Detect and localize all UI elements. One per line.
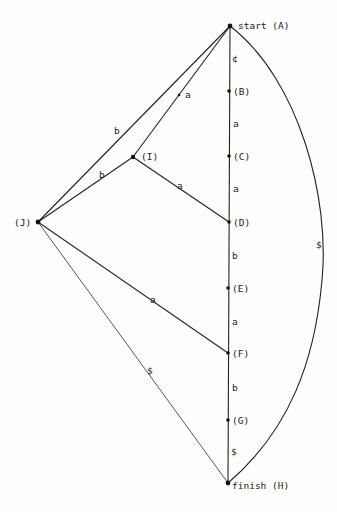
edge-label-jf: a [150,294,156,305]
node-label-f: (F) [232,348,249,359]
edge-label-ef: a [232,316,238,327]
edge-spine-a-to-h [228,26,230,483]
edge-label-de: b [232,250,238,261]
edge-label-aj: b [114,125,120,136]
node-e [226,286,230,290]
node-j [36,220,41,225]
node-c [227,154,231,158]
edge-tick-mark [178,94,181,97]
node-label-a: start (A) [238,20,289,31]
node-label-d: (D) [233,217,250,228]
edge-a-i [133,26,230,157]
node-d [227,220,231,224]
edge-label-ab: ¢ [232,53,238,64]
edge-j-h [38,222,228,483]
edge-j-i [38,157,133,222]
node-label-e: (E) [232,283,249,294]
node-h [226,481,231,486]
edge-label-gh: $ [231,446,237,457]
state-diagram: start (A) (B) (C) (D) (E) (F) (G) finish… [0,0,337,512]
edge-label-ai: a [185,89,191,100]
edge-label-id: a [177,180,183,191]
node-label-g: (G) [232,415,249,426]
node-label-b: (B) [233,86,250,97]
edge-label-ah-curve: $ [316,239,322,250]
edge-label-cd: a [233,183,239,194]
node-b [227,89,231,93]
edge-a-j [38,26,230,222]
node-label-j: (J) [14,217,31,228]
node-label-i: (I) [141,151,158,162]
node-label-c: (C) [233,151,250,162]
edge-j-f [38,222,228,353]
node-f [226,351,230,355]
edge-label-jh: $ [147,365,153,376]
edge-label-ji: b [99,169,105,180]
node-i [131,155,135,159]
node-label-h: finish (H) [232,480,289,491]
node-g [226,418,230,422]
edge-label-bc: a [233,118,239,129]
edge-label-fg: b [232,382,238,393]
node-a [228,24,233,29]
